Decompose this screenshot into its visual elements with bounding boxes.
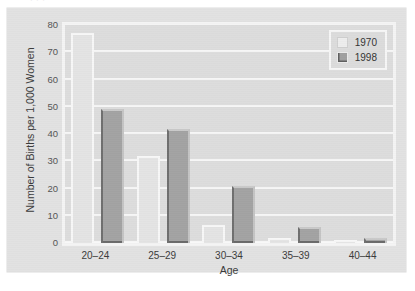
x-axis-title: Age [62, 264, 396, 276]
y-axis-tick-labels: 01020304050607080 [32, 22, 58, 246]
bar-1998-30-34 [232, 186, 255, 243]
y-axis-tick-label: 80 [36, 20, 58, 30]
x-axis-tick-label: 20–24 [62, 250, 129, 264]
bar-1970-40-44 [334, 240, 357, 243]
x-axis-tick-label: 35–39 [262, 250, 329, 264]
bar-group [196, 25, 262, 243]
bar-1998-20-24 [101, 109, 124, 243]
x-axis-tick-labels: 20–2425–2930–3435–3940–44 [62, 250, 396, 264]
bar-1970-25-29 [137, 156, 160, 243]
bar-group [262, 25, 328, 243]
y-axis-tick-label: 10 [36, 211, 58, 221]
x-axis-tick-label: 30–34 [196, 250, 263, 264]
bar-1998-35-39 [298, 227, 321, 243]
y-axis-tick-label: 30 [36, 157, 58, 167]
bar-1998-40-44 [364, 238, 387, 243]
bar-1998-25-29 [167, 129, 190, 243]
y-axis-tick-label: 0 [36, 238, 58, 248]
x-axis-tick-label: 25–29 [129, 250, 196, 264]
y-axis-tick-label: 50 [36, 102, 58, 112]
y-axis-tick-label: 60 [36, 75, 58, 85]
dark-square-swatch [337, 52, 348, 63]
y-axis-tick-label: 70 [36, 48, 58, 58]
plot-frame: 19701998 [62, 22, 396, 246]
clipped-header-text: · · · [30, 0, 290, 4]
chart-legend: 19701998 [329, 30, 387, 70]
legend-label: 1998 [355, 53, 377, 63]
legend-item-1998: 1998 [337, 52, 377, 63]
bar-1970-35-39 [268, 238, 291, 243]
light-square-swatch [337, 37, 348, 48]
bar-1970-30-34 [202, 225, 225, 243]
legend-item-1970: 1970 [337, 37, 377, 48]
bar-group [131, 25, 197, 243]
figure-card: Number of Births per 1,000 Women 0102030… [7, 8, 406, 272]
bar-group [65, 25, 131, 243]
x-axis-tick-label: 40–44 [329, 250, 396, 264]
bar-1970-20-24 [71, 33, 94, 243]
y-axis-tick-label: 20 [36, 184, 58, 194]
y-axis-tick-label: 40 [36, 129, 58, 139]
legend-label: 1970 [355, 38, 377, 48]
